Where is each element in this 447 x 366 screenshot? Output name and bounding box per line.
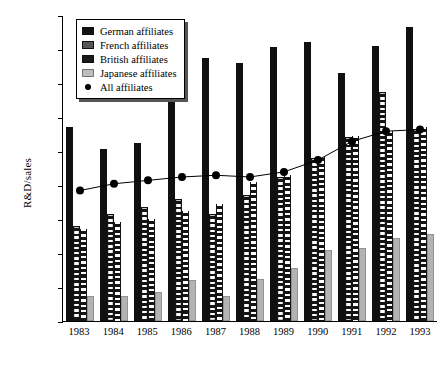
bar-german <box>66 127 73 321</box>
japanese-swatch <box>82 69 94 77</box>
bar-british <box>386 131 393 321</box>
x-axis-label: 1984 <box>96 326 130 337</box>
bar-japanese <box>393 238 400 321</box>
bar-german <box>100 149 107 321</box>
legend-item: German affiliates <box>82 24 176 38</box>
bar-group <box>233 16 267 321</box>
rd-sales-bar-chart: R&D/sales 0.00%0.20%0.40%0.60%0.80%1.00%… <box>0 0 447 366</box>
bar-french <box>73 226 80 321</box>
all-affiliates-marker <box>82 83 94 91</box>
legend-item: Japanese affiliates <box>82 66 176 80</box>
bar-british <box>250 182 257 321</box>
bar-japanese <box>427 234 434 321</box>
bar-japanese <box>189 280 196 321</box>
x-axis-label: 1985 <box>130 326 164 337</box>
bar-japanese <box>87 296 94 322</box>
bar-french <box>243 195 250 321</box>
legend-item: British affiliates <box>82 52 176 66</box>
bar-german <box>236 63 243 321</box>
bar-french <box>141 207 148 321</box>
legend-label: All affiliates <box>100 82 153 93</box>
x-axis-label: 1992 <box>369 326 403 337</box>
legend-label: French affiliates <box>100 40 168 51</box>
bar-british <box>352 136 359 321</box>
bar-group <box>267 16 301 321</box>
bar-japanese <box>223 296 230 322</box>
bar-japanese <box>359 248 366 321</box>
bar-british <box>182 211 189 322</box>
legend-item: French affiliates <box>82 38 176 52</box>
bar-japanese <box>257 279 264 322</box>
bar-british <box>420 127 427 321</box>
bar-german <box>372 46 379 321</box>
bar-japanese <box>325 250 332 321</box>
x-axis-label: 1989 <box>267 326 301 337</box>
bar-french <box>175 199 182 321</box>
bar-british <box>216 204 223 321</box>
bar-french <box>311 158 318 321</box>
x-axis-label: 1988 <box>232 326 266 337</box>
bar-group <box>403 16 437 321</box>
bar-german <box>304 42 311 321</box>
legend-label: British affiliates <box>100 54 168 65</box>
x-axis-label: 1993 <box>403 326 437 337</box>
bar-german <box>202 58 209 322</box>
bar-british <box>148 219 155 321</box>
bar-group <box>199 16 233 321</box>
x-axis-label: 1987 <box>198 326 232 337</box>
bar-group <box>369 16 403 321</box>
x-axis-label: 1983 <box>62 326 96 337</box>
bar-japanese <box>121 296 128 322</box>
chart-legend: German affiliatesFrench affiliatesBritis… <box>76 19 185 99</box>
bar-japanese <box>291 268 298 321</box>
german-swatch <box>82 27 94 35</box>
bar-french <box>277 177 284 322</box>
bar-french <box>413 129 420 321</box>
legend-item: All affiliates <box>82 80 176 94</box>
french-swatch <box>82 41 94 49</box>
bar-german <box>406 27 413 321</box>
bar-french <box>379 92 386 322</box>
bar-french <box>345 137 352 321</box>
bar-british <box>80 229 87 321</box>
x-axis-label: 1991 <box>335 326 369 337</box>
bar-german <box>134 143 141 322</box>
y-axis-title: R&D/sales <box>21 158 33 208</box>
legend-label: Japanese affiliates <box>100 68 176 79</box>
x-axis-label: 1986 <box>164 326 198 337</box>
bar-group <box>335 16 369 321</box>
bar-french <box>107 214 114 321</box>
bar-german <box>270 47 277 321</box>
british-swatch <box>82 55 94 63</box>
bar-french <box>209 214 216 321</box>
y-axis-tick <box>58 322 63 323</box>
bar-japanese <box>155 292 162 321</box>
bar-british <box>284 175 291 321</box>
bar-german <box>168 93 175 321</box>
bar-british <box>318 156 325 321</box>
legend-label: German affiliates <box>100 26 173 37</box>
bar-british <box>114 222 121 321</box>
x-axis-label: 1990 <box>301 326 335 337</box>
bar-german <box>338 73 345 321</box>
x-axis-labels: 1983198419851986198719881989199019911992… <box>62 326 437 337</box>
bar-group <box>301 16 335 321</box>
